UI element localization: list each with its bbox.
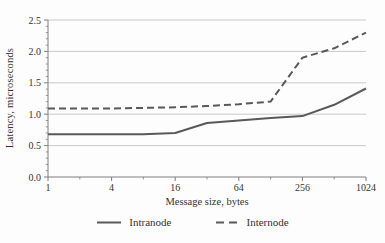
x-tick-label: 64 <box>234 182 244 193</box>
y-tick-label: 1.0 <box>29 109 42 120</box>
intranode-solid-line-icon <box>96 220 122 225</box>
latency-line-chart: 0.00.51.01.52.02.51416642561024 Latency,… <box>0 0 385 243</box>
internode-dashed-line-icon <box>216 220 240 225</box>
y-tick-label: 2.0 <box>29 46 42 57</box>
x-tick-label: 256 <box>295 182 310 193</box>
series-internode-line <box>48 33 366 109</box>
legend-label-internode: Internode <box>247 216 289 228</box>
series-intranode-line <box>48 89 366 135</box>
x-tick-label: 1 <box>46 182 51 193</box>
y-tick-label: 1.5 <box>29 77 42 88</box>
x-tick-label: 1024 <box>356 182 376 193</box>
y-tick-label: 0.5 <box>29 140 42 151</box>
legend-item-intranode: Intranode <box>96 216 171 228</box>
legend-label-intranode: Intranode <box>129 216 171 228</box>
y-tick-label: 2.5 <box>29 15 42 26</box>
y-tick-label: 0.0 <box>29 172 42 183</box>
x-tick-label: 16 <box>170 182 180 193</box>
y-axis-title: Latency, microseconds <box>4 48 15 148</box>
chart-legend: Intranode Internode <box>0 216 385 228</box>
legend-item-internode: Internode <box>216 216 289 228</box>
x-tick-label: 4 <box>109 182 114 193</box>
x-axis-title: Message size, bytes <box>165 196 248 207</box>
